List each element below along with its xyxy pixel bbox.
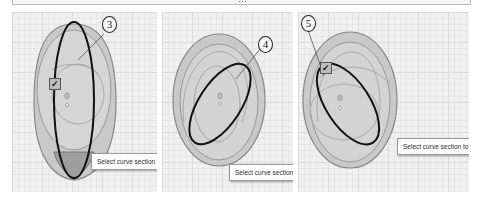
checkbox-icon[interactable]: ✓ [49, 78, 61, 90]
top-caption-bar: … [12, 0, 471, 5]
step-number-badge: 5 [301, 15, 316, 32]
viewport-panel-step-5[interactable]: 5 ✓ Select curve section to trim [298, 12, 469, 192]
viewport-panel-step-3[interactable]: 3 ✓ Select curve section to trim [12, 12, 157, 192]
drawing-canvas[interactable] [298, 12, 469, 192]
status-tooltip: Select curve section to trim [91, 153, 157, 170]
status-tooltip: Select curve section to trim [397, 138, 469, 155]
step-number-badge: 3 [102, 16, 117, 33]
checkbox-icon[interactable]: ✓ [320, 62, 332, 74]
status-tooltip: Select curve section to trim [229, 164, 293, 181]
step-number-badge: 4 [258, 36, 273, 53]
viewport-panel-step-4[interactable]: 4 Select curve section to trim [162, 12, 293, 192]
caption-text: … [238, 0, 249, 4]
